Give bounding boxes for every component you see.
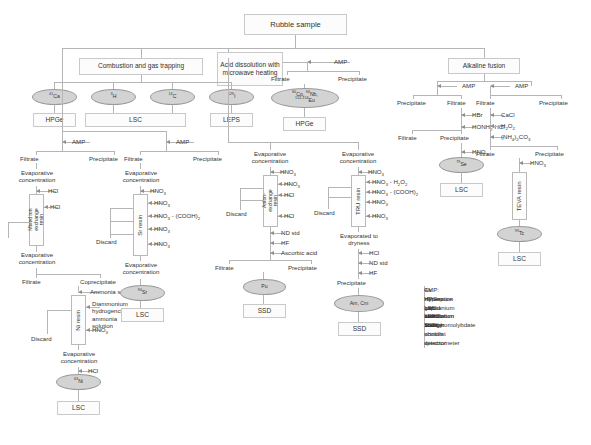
reagent-hno3-anion-0: HNO3	[280, 168, 296, 175]
edge-mixed-discard-h	[8, 222, 29, 223]
column-sr-resin: Sr resin	[133, 194, 148, 256]
nuclide-am-cm-label: Am, Cm	[350, 301, 369, 307]
reagent-hno3-tru-0: HNO3	[368, 168, 384, 175]
nuclide-c14-label: 14C	[169, 94, 177, 100]
reagent-amp-3: AMP	[334, 58, 347, 65]
column-tru-resin-label: TRU resin	[355, 187, 362, 214]
reagent-hno3-sr-3: HNO3	[154, 240, 170, 247]
nuclide-h3: 3H	[91, 89, 136, 105]
detector-ssd-amcm: SSD	[338, 322, 381, 336]
reagent-hno3-cooh2-tru: HNO3 - (COOH)2	[372, 188, 418, 195]
node-filtrate-1: Filtrate	[20, 155, 39, 162]
reagent-hbr: HBr	[472, 111, 483, 118]
arrowhead-hno3-sr3	[148, 242, 152, 246]
column-anion-resin: Anion-exchange resin	[263, 175, 278, 227]
node-combustion-label: Combustion and gas trapping	[98, 62, 184, 70]
edge-ni-discard-v	[47, 310, 48, 334]
edge-cacl-split	[490, 146, 557, 147]
edge-tc99-to-lsc	[519, 242, 520, 252]
edge-i129-to-leps	[231, 105, 232, 113]
detector-hpge-combustion: HPGe	[33, 113, 76, 127]
step-evap-conc-5: Evaporative concentration	[112, 261, 170, 276]
arrowhead-hf-tru	[358, 271, 362, 275]
nuclide-se79: 79Se	[439, 157, 484, 173]
edge-h3-to-lsc	[113, 105, 114, 113]
arrowhead-tru-r2	[366, 190, 370, 194]
reagent-amp-4: AMP	[462, 82, 475, 89]
reagent-hno3-anion-1: HNO3	[284, 180, 300, 187]
edge-bus-to-combustion	[141, 48, 142, 58]
column-ni-resin: Ni resin	[71, 295, 86, 345]
node-precipitate-alk-r: Precipitate	[539, 99, 568, 106]
legend-row-hpge: HPGe: Hyperpure germanium detector	[424, 295, 586, 304]
nuclide-h3-label: 3H	[111, 94, 117, 100]
detector-ssd-amcm-label: SSD	[353, 325, 367, 333]
node-precipitate-hbr: Precipitate	[440, 134, 469, 141]
node-combustion: Combustion and gas trapping	[79, 58, 203, 75]
node-filtrate-2: Filtrate	[124, 155, 143, 162]
edge-left-carry	[62, 131, 166, 132]
reagent-hno3-cooh2-sr: HNO3 - (COOH)2	[154, 212, 200, 219]
step-evap-conc-4: Evaporative concentration	[112, 169, 170, 184]
edge-hbr-split	[412, 130, 461, 131]
reagent-hcl-1: HCl	[48, 187, 58, 194]
reagent-amp-2: AMP	[176, 138, 189, 145]
edge-amp5-split	[490, 95, 561, 96]
arrowhead-nh4co3	[490, 135, 494, 139]
edge-amp2-down	[166, 142, 167, 151]
reagent-hcl-ni: HCl	[88, 367, 98, 374]
node-precipitate-cacl: Precipitate	[535, 150, 564, 157]
arrowhead-hno3-sr2	[148, 227, 152, 231]
column-tru-resin: TRU resin	[351, 175, 366, 227]
detector-lsc-combustion-label: LSC	[129, 116, 142, 124]
reagent-hcl-tru: HCl	[369, 249, 379, 256]
edge-tru-drop	[358, 142, 359, 150]
edge-anion-discard-h1	[240, 188, 263, 189]
arrowhead-hcl-tru	[358, 251, 362, 255]
arrowhead-hno3-an1	[278, 182, 282, 186]
nuclide-hpge-group: 60Co, 94Nb,152,154Eu	[271, 88, 339, 108]
reagent-cacl: CaCl	[501, 111, 515, 118]
edge-amp4-down	[437, 86, 438, 95]
reagent-hno3-teva: HNO3	[530, 159, 546, 166]
reagent-hno3-sr-1: HNO3	[154, 199, 170, 206]
arrowhead-ammonia	[78, 290, 82, 294]
edge-ca-to-hpge	[54, 105, 55, 113]
legend-text-ssd: Solid scintillat detector	[424, 321, 425, 347]
reagent-hcl-anion-1: HCl	[284, 191, 294, 198]
node-rubble-sample-label: Rubble sample	[270, 20, 321, 29]
arrowhead-ascorbic-an	[270, 251, 274, 255]
column-teva-resin: TEVA resin	[512, 172, 527, 220]
edge-bus-to-alkaline	[484, 48, 485, 58]
node-filtrate-alk-r: Filtrate	[476, 99, 495, 106]
edge-alk-right-stem	[531, 81, 532, 86]
detector-lsc-combustion: LSC	[85, 113, 186, 127]
detector-ssd-pu-label: SSD	[258, 307, 272, 315]
arrowhead-hcl1	[36, 189, 40, 193]
edge-anion-discard-v	[240, 188, 241, 210]
edge-sr90-to-lsc	[140, 301, 141, 308]
detector-lsc-se79: LSC	[440, 183, 483, 197]
reagent-hno3-ni: HNO3	[92, 326, 108, 333]
arrowhead-hno3-tru0	[358, 170, 362, 174]
arrowhead-hno3cooh-sr	[148, 214, 152, 218]
edge-main-bus	[62, 48, 484, 49]
node-precipitate-1: Precipitate	[89, 155, 118, 162]
node-filtrate-cacl: Filtrate	[476, 150, 495, 157]
legend: AMP: Cs elimination with ammonium phosph…	[424, 286, 586, 330]
step-evap-conc-3: Evaporative concentration	[50, 350, 108, 365]
nuclide-ni63: 63Ni	[56, 374, 101, 390]
arrowhead-tru-r4	[366, 214, 370, 218]
edge-pu-to-ssd	[263, 295, 264, 304]
detector-lsc-sr90: LSC	[121, 308, 164, 322]
node-precipitate-alk-l: Precipitate	[397, 99, 426, 106]
detector-ssd-pu: SSD	[243, 304, 286, 318]
nuclide-ni63-label: 63Ni	[74, 379, 83, 385]
node-discard-anion: Discard	[226, 210, 247, 217]
reagent-hf-tru: HF	[369, 269, 377, 276]
edge-ni-discard-h	[47, 310, 71, 311]
step-evap-conc-2: Evaporative concentration	[8, 251, 66, 266]
detector-lsc-tc99-label: LSC	[513, 255, 526, 263]
edge-anion-final-split	[229, 260, 311, 261]
nuclide-sr90: 90Sr	[120, 285, 165, 301]
